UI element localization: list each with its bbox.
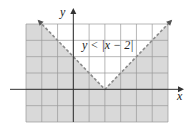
- x-axis-label: x: [176, 89, 183, 103]
- inequality-label: y < |x − 2|: [81, 38, 133, 52]
- inequality-graph: x y y < |x − 2|: [0, 0, 193, 128]
- y-axis-label: y: [59, 5, 66, 19]
